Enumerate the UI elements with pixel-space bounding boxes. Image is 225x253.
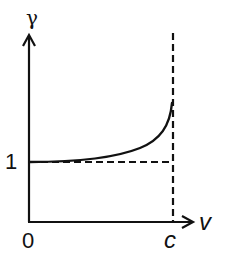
gamma-vs-velocity-chart: [0, 0, 225, 253]
x-tick-c: c: [164, 228, 176, 252]
x-origin-label: 0: [22, 230, 34, 252]
y-axis-label: γ: [26, 8, 38, 28]
y-tick-1: 1: [5, 151, 17, 173]
x-axis-label: v: [199, 210, 211, 234]
gamma-curve: [30, 103, 172, 162]
